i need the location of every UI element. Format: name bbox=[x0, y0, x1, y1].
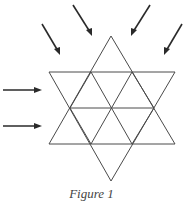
arrow-top-left-outer-icon bbox=[42, 24, 60, 55]
arrow-top-right-outer-icon bbox=[164, 24, 182, 55]
grid-line bbox=[49, 72, 111, 181]
hexagram-grid bbox=[49, 36, 175, 181]
grid-line bbox=[70, 108, 91, 144]
arrow-top-right-inner-icon bbox=[131, 5, 150, 36]
arrow-left-lower-icon bbox=[3, 123, 42, 129]
grid-line bbox=[132, 72, 154, 108]
figure-caption: Figure 1 bbox=[0, 186, 183, 202]
hexagram-diagram bbox=[0, 0, 183, 208]
arrow-top-left-inner-icon bbox=[73, 5, 92, 36]
grid-line bbox=[132, 108, 154, 144]
arrow-left-upper-icon bbox=[3, 87, 42, 93]
grid-line bbox=[70, 72, 91, 108]
